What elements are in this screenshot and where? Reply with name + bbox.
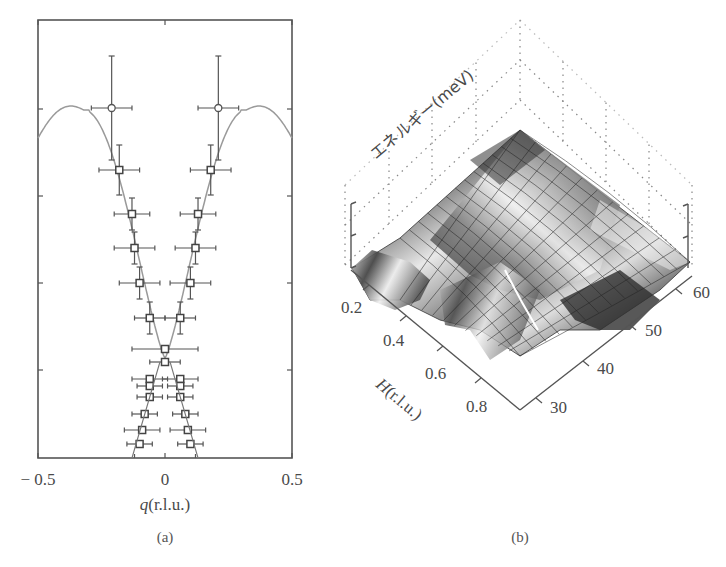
data-point — [114, 232, 155, 264]
data-points — [91, 56, 238, 448]
x-axis-label: q(r.l.u.) — [140, 495, 191, 514]
data-point — [175, 232, 216, 264]
svg-text:0.8: 0.8 — [466, 397, 487, 416]
x-tick-label: − 0.5 — [20, 470, 55, 489]
svg-text:60: 60 — [693, 283, 710, 302]
data-point — [150, 359, 180, 366]
data-point — [170, 427, 206, 434]
data-point — [114, 198, 150, 230]
data-point — [91, 56, 132, 160]
data-point — [135, 302, 165, 334]
axis-ticks — [38, 20, 292, 458]
plot-frame — [38, 20, 292, 458]
data-point — [127, 441, 152, 448]
svg-text:30: 30 — [550, 398, 567, 417]
figure: − 0.500.5 q(r.l.u.) (a) — [0, 0, 726, 567]
data-point — [124, 427, 160, 434]
caption-b: (b) — [511, 529, 529, 546]
svg-text:0.4: 0.4 — [383, 331, 405, 350]
x-tick-label: 0 — [161, 470, 170, 489]
data-point — [99, 145, 140, 195]
svg-text:40: 40 — [597, 359, 614, 378]
energy-axis-label: エネルギー(meV) — [366, 66, 477, 163]
caption-a: (a) — [157, 529, 174, 546]
svg-text:0.2: 0.2 — [341, 298, 362, 317]
data-point — [198, 56, 239, 160]
data-point — [132, 346, 198, 353]
data-point — [180, 198, 216, 230]
data-point — [119, 267, 160, 299]
x-tick-label: 0.5 — [281, 470, 302, 489]
data-point — [178, 441, 203, 448]
data-point — [170, 267, 211, 299]
data-point — [190, 145, 231, 195]
h-axis-label: H(r.l.u.) — [372, 374, 427, 424]
data-point — [137, 383, 162, 390]
data-point — [165, 302, 195, 334]
panel-a-dispersion-plot: − 0.500.5 q(r.l.u.) (a) — [20, 20, 302, 546]
svg-text:50: 50 — [645, 321, 662, 340]
data-point — [168, 383, 193, 390]
svg-text:0.6: 0.6 — [425, 364, 446, 383]
panel-b-3d-surface: 0.2 0.4 0.6 0.8 30 40 50 60 H(r.l.u.) エネ… — [341, 20, 710, 546]
energy-surface — [352, 130, 690, 360]
x-tick-labels: − 0.500.5 — [20, 470, 302, 489]
